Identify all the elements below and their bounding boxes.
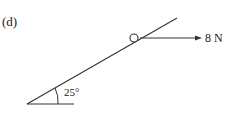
force-label: 8 N xyxy=(205,31,223,45)
incline-line xyxy=(27,18,177,104)
arrowhead-icon xyxy=(195,36,202,41)
angle-label: 25° xyxy=(64,86,79,98)
angle-arc xyxy=(55,88,58,104)
particle xyxy=(130,34,138,42)
part-label: (d) xyxy=(2,14,17,29)
inclined-plane-diagram: (d) 25° 8 N xyxy=(0,0,231,114)
